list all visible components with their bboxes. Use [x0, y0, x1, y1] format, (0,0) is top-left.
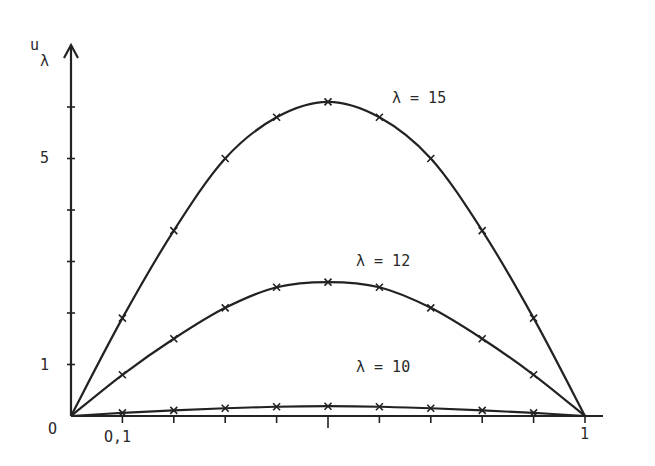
x-marker-icon: [222, 155, 229, 162]
y-axis-label-subscript: λ: [40, 52, 49, 70]
x-marker-icon: [119, 371, 126, 378]
x-marker-icon: [119, 315, 126, 322]
y-axis-label: u: [30, 36, 39, 54]
curve-label-15: λ = 15: [392, 89, 446, 107]
origin-label: O: [48, 420, 57, 438]
x-marker-icon: [479, 227, 486, 234]
x-marker-icon: [530, 315, 537, 322]
x-ticks: [122, 416, 585, 428]
x-marker-icon: [479, 335, 486, 342]
x-tick-label-1: 1: [580, 425, 589, 443]
axes: [64, 45, 603, 416]
x-marker-icon: [427, 155, 434, 162]
x-marker-icon: [170, 335, 177, 342]
curve-series-2: [71, 406, 585, 416]
chart: u λ 5 1 O O,1 1 λ = 15 λ = 12 λ = 10: [0, 0, 655, 466]
x-tick-label-0-1: O,1: [104, 428, 131, 446]
y-tick-label-1: 1: [40, 356, 49, 374]
curves: [71, 98, 585, 416]
curve-series-1: [71, 282, 585, 416]
x-marker-icon: [376, 114, 383, 121]
curve-series-0: [71, 102, 585, 416]
curve-label-12: λ = 12: [356, 252, 410, 270]
x-marker-icon: [530, 371, 537, 378]
y-tick-label-5: 5: [40, 149, 49, 167]
x-marker-icon: [170, 227, 177, 234]
curve-label-10: λ = 10: [356, 358, 410, 376]
x-marker-icon: [273, 114, 280, 121]
